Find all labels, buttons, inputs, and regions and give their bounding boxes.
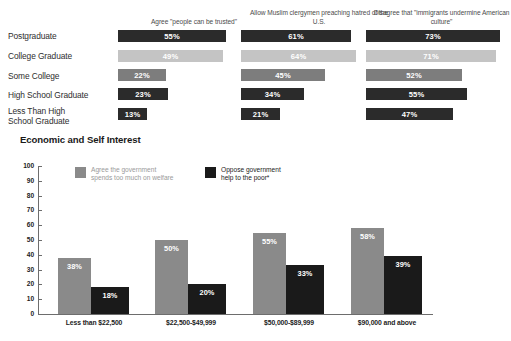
bar-clergymen-college-graduate: 64% <box>241 50 356 62</box>
y-tick <box>38 196 42 197</box>
bar-oppose-help-50000-89999: 33% <box>286 265 324 314</box>
bar-clergymen-some-college: 45% <box>241 69 325 81</box>
bar-value: 23% <box>135 90 151 99</box>
x-axis-label-under-22500: Less than $22,500 <box>40 319 148 326</box>
bar-value: 73% <box>425 32 441 41</box>
y-axis-label-70: 70 <box>0 206 34 213</box>
row-label-less-than-high-school: Less Than High School Graduate <box>8 107 69 126</box>
bar-value: 64% <box>291 52 307 61</box>
bar-value: 20% <box>188 288 226 297</box>
x-axis-line <box>38 314 433 315</box>
bar-value: 55% <box>253 237 286 246</box>
bar-value: 34% <box>265 90 281 99</box>
bar-agree-welfare-90000-above: 58% <box>351 228 384 314</box>
bar-trust-postgraduate: 55% <box>118 30 226 42</box>
bar-value: 55% <box>409 90 425 99</box>
row-label-some-college: Some College <box>8 72 59 82</box>
bar-immigrants-less-than-high-school: 47% <box>366 108 453 120</box>
bar-value: 22% <box>134 71 150 80</box>
x-axis-label-22500-49999: $22,500-$49,999 <box>137 319 245 326</box>
bar-immigrants-some-college: 52% <box>366 69 462 81</box>
page-title: Economic and Self Interest <box>20 134 141 145</box>
bar-immigrants-postgraduate: 73% <box>366 30 500 42</box>
y-axis-label-20: 20 <box>0 280 34 287</box>
row-label-high-school-graduate: High School Graduate <box>8 91 88 101</box>
bar-oppose-help-90000-above: 39% <box>384 256 422 314</box>
bar-value: 47% <box>402 110 418 119</box>
bar-value: 58% <box>351 232 384 241</box>
y-axis-label-80: 80 <box>0 192 34 199</box>
row-label-college-graduate: College Graduate <box>8 52 72 62</box>
bar-value: 61% <box>288 32 304 41</box>
y-tick <box>38 299 42 300</box>
bar-clergymen-postgraduate: 61% <box>241 30 351 42</box>
bar-value: 39% <box>384 260 422 269</box>
bar-clergymen-high-school-graduate: 34% <box>241 88 304 100</box>
y-tick <box>38 166 42 167</box>
bar-agree-welfare-under-22500: 38% <box>58 258 91 314</box>
bar-agree-welfare-50000-89999: 55% <box>253 233 286 314</box>
y-axis-label-40: 40 <box>0 251 34 258</box>
bar-trust-college-graduate: 49% <box>118 50 223 62</box>
y-tick <box>38 255 42 256</box>
bar-value: 38% <box>58 262 91 271</box>
x-axis-label-90000-above: $90,000 and above <box>333 319 441 326</box>
y-axis-label-30: 30 <box>0 266 34 273</box>
bar-clergymen-less-than-high-school: 21% <box>241 108 280 120</box>
bar-value: 18% <box>91 291 129 300</box>
bar-value: 50% <box>155 244 188 253</box>
bar-value: 13% <box>125 110 141 119</box>
y-axis-label-10: 10 <box>0 295 34 302</box>
y-tick <box>38 210 42 211</box>
bar-agree-welfare-22500-49999: 50% <box>155 240 188 314</box>
y-tick <box>38 314 42 315</box>
bar-trust-some-college: 22% <box>118 69 166 81</box>
bar-value: 21% <box>253 110 269 119</box>
y-axis-label-100: 100 <box>0 162 34 169</box>
bar-value: 45% <box>275 71 291 80</box>
column-header-immigrants: Disagree that "immigrants undermine Amer… <box>372 9 511 26</box>
bar-oppose-help-22500-49999: 20% <box>188 284 226 314</box>
bar-value: 33% <box>286 269 324 278</box>
y-tick <box>38 270 42 271</box>
bar-trust-high-school-graduate: 23% <box>118 88 168 100</box>
y-axis-label-90: 90 <box>0 177 34 184</box>
bar-value: 52% <box>406 71 422 80</box>
bar-value: 49% <box>163 52 179 61</box>
income-bar-chart: 100 90 80 70 60 50 40 30 20 10 0 38% 18%… <box>0 160 511 341</box>
y-tick <box>38 240 42 241</box>
y-tick <box>38 284 42 285</box>
bar-immigrants-high-school-graduate: 55% <box>366 88 467 100</box>
x-axis-label-50000-89999: $50,000-$89,999 <box>235 319 343 326</box>
row-label-postgraduate: Postgraduate <box>8 32 57 42</box>
bar-oppose-help-under-22500: 18% <box>91 287 129 314</box>
y-tick <box>38 181 42 182</box>
y-axis-label-0: 0 <box>0 310 34 317</box>
bar-trust-less-than-high-school: 13% <box>118 108 147 120</box>
bar-immigrants-college-graduate: 71% <box>366 50 496 62</box>
bar-value: 55% <box>164 32 180 41</box>
column-header-clergymen: Allow Muslim clergymen preaching hatred … <box>248 9 390 26</box>
y-tick <box>38 225 42 226</box>
y-axis-label-50: 50 <box>0 236 34 243</box>
education-bar-panel: Agree "people can be trusted" Allow Musl… <box>0 0 511 130</box>
bar-value: 71% <box>423 52 439 61</box>
y-axis-label-60: 60 <box>0 221 34 228</box>
